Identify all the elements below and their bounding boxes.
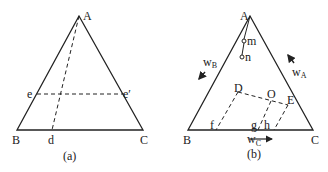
label-vertex-a-a: A <box>83 9 92 23</box>
label-point-m: m <box>247 34 257 48</box>
caption-a: (a) <box>63 149 76 163</box>
label-wa: wA <box>292 65 307 80</box>
dashed-line-d-f <box>216 92 238 130</box>
label-vertex-b-a: B <box>12 133 20 147</box>
label-wb: wB <box>203 55 217 70</box>
label-point-o: O <box>267 87 276 101</box>
label-vertex-a-b: A <box>240 9 249 23</box>
label-point-e: e <box>27 87 32 101</box>
label-point-d-upper: D <box>234 81 243 95</box>
label-point-e-upper: E <box>287 93 294 107</box>
dashed-line-e-h <box>274 105 288 130</box>
label-vertex-b-b: B <box>183 133 191 147</box>
label-vertex-c-a: C <box>140 133 148 147</box>
figure-b: A B C m n D O E f g h wB wA wC (b) <box>183 9 319 161</box>
label-point-d: d <box>48 133 54 147</box>
label-point-g: g <box>251 118 257 132</box>
label-point-e-prime: e′ <box>123 87 131 101</box>
dashed-line-a-d <box>52 16 79 130</box>
label-point-f: f <box>210 118 214 132</box>
dashed-line-d-e <box>238 92 288 105</box>
line-m-n <box>242 43 244 55</box>
figure-a: A B C e e′ d (a) <box>12 9 148 163</box>
caption-b: (b) <box>247 147 261 161</box>
label-vertex-c-b: C <box>311 133 319 147</box>
arrow-wb-icon <box>199 72 205 79</box>
point-m <box>242 39 246 43</box>
label-point-h: h <box>264 118 270 132</box>
label-wc: wC <box>247 132 261 148</box>
ternary-diagrams: A B C e e′ d (a) A B C m n D O E f g h <box>0 0 328 172</box>
label-point-n: n <box>245 50 251 64</box>
arrow-wa-icon <box>288 55 294 63</box>
triangle-abc-a <box>17 16 143 130</box>
point-n <box>240 55 244 59</box>
